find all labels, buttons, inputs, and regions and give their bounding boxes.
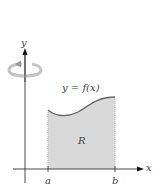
region-label: R: [78, 136, 86, 146]
curve-label: y = f(x): [62, 83, 100, 93]
y-axis-label: y: [21, 38, 27, 48]
rotation-arrow-icon: [9, 54, 41, 82]
region-r: [48, 97, 115, 169]
diagram-canvas: [0, 0, 165, 194]
x-axis-arrow-icon: [137, 167, 144, 172]
interval-start-label: a: [45, 176, 51, 186]
x-axis-label: x: [146, 163, 152, 173]
y-axis-arrow-icon: [23, 48, 28, 55]
interval-end-label: b: [112, 176, 118, 186]
